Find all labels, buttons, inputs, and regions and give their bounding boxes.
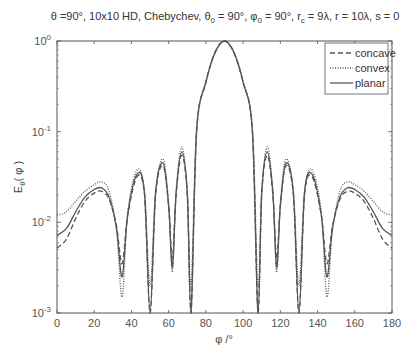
y-tick-label: 10-1 [32,124,52,138]
chart-title: θ =90°, 10x10 HD, Chebychev, θ0 = 90°, φ… [51,10,400,25]
y-axis-label: Eθ( φ ) [12,161,27,193]
x-tick-label: 120 [271,317,289,329]
legend-label-convex: convex [355,62,390,74]
legend-label-concave: concave [355,47,396,59]
x-tick-label: 80 [200,317,212,329]
legend: concave convex planar [325,43,396,94]
x-tick-label: 20 [88,317,100,329]
chart: θ =90°, 10x10 HD, Chebychev, θ0 = 90°, φ… [0,0,414,356]
x-tick-label: 180 [383,317,401,329]
x-tick-label: 60 [163,317,175,329]
x-axis-label: φ /° [215,333,233,345]
x-tick-label: 140 [308,317,326,329]
y-tick-label: 10-3 [32,305,52,319]
x-tick-label: 40 [125,317,137,329]
legend-label-planar: planar [355,77,386,89]
x-tick-label: 160 [346,317,364,329]
y-tick-label: 100 [34,33,51,47]
x-tick-label: 100 [234,317,252,329]
y-tick-label: 10-2 [32,214,52,228]
x-tick-label: 0 [54,317,60,329]
